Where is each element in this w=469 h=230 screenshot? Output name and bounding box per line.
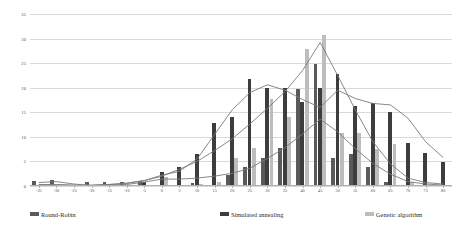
legend-item[interactable]: Genetic algorithm	[365, 208, 422, 220]
x-axis-tick-label: 0	[161, 188, 163, 193]
y-axis-tick-label: 30	[21, 36, 26, 41]
x-axis-tick-label: -20	[89, 188, 95, 193]
legend-swatch-icon	[365, 212, 374, 216]
x-axis-baseline	[30, 185, 452, 186]
x-axis-tick-label: 15	[213, 188, 217, 193]
x-axis-tick-label: 50	[336, 188, 340, 193]
x-axis-tick-label: -10	[124, 188, 130, 193]
x-axis-tick-label: 40	[300, 188, 304, 193]
x-axis-tick-label: 30	[265, 188, 269, 193]
legend-label: Genetic algorithm	[376, 211, 422, 218]
y-axis-tick-label: 35	[21, 12, 26, 17]
y-axis-tick-label: 10	[21, 134, 26, 139]
x-axis-tick-label: 35	[283, 188, 287, 193]
y-axis-tick-label: 0	[24, 184, 26, 189]
legend-swatch-icon	[220, 212, 229, 216]
y-axis-tick-label: 15	[21, 110, 26, 115]
x-axis-tick-label: 25	[248, 188, 252, 193]
x-axis-tick-label: -5	[143, 188, 147, 193]
legend-label: Round-Robin	[41, 211, 76, 218]
x-axis-tick-label: 10	[195, 188, 199, 193]
x-axis-tick-label: 45	[318, 188, 322, 193]
y-axis-tick-label: 20	[21, 85, 26, 90]
trend-line	[39, 119, 443, 185]
x-axis-tick-label: 65	[388, 188, 392, 193]
x-axis-tick-label: -30	[54, 188, 60, 193]
x-axis-tick-label: -15	[106, 188, 112, 193]
x-axis-tick-labels: -35-30-25-20-15-10-505101520253035404550…	[30, 188, 452, 200]
x-axis-tick-label: -35	[36, 188, 42, 193]
legend-item[interactable]: Round-Robin	[30, 208, 76, 220]
y-axis-tick-label: 25	[21, 61, 26, 66]
bar-chart: 05101520253035 -35-30-25-20-15-10-505101…	[0, 0, 469, 230]
chart-legend: Round-RobinSimulated annealingGenetic al…	[30, 208, 460, 222]
x-axis-tick-label: 55	[353, 188, 357, 193]
legend-swatch-icon	[30, 212, 39, 216]
legend-label: Simulated annealing	[231, 211, 283, 218]
trend-line	[39, 85, 443, 185]
legend-item[interactable]: Simulated annealing	[220, 208, 283, 220]
plot-area: 05101520253035	[30, 14, 452, 186]
x-axis-tick-label: 5	[178, 188, 180, 193]
y-axis-tick-label: 5	[24, 159, 26, 164]
x-axis-tick-label: 75	[424, 188, 428, 193]
gridline	[30, 186, 452, 187]
x-axis-tick-label: 60	[371, 188, 375, 193]
x-axis-tick-label: -25	[71, 188, 77, 193]
x-axis-tick-label: 20	[230, 188, 234, 193]
trend-line-layer	[30, 14, 452, 186]
trend-line	[39, 43, 443, 186]
x-axis-tick-label: 70	[406, 188, 410, 193]
x-axis-tick-label: 80	[441, 188, 445, 193]
